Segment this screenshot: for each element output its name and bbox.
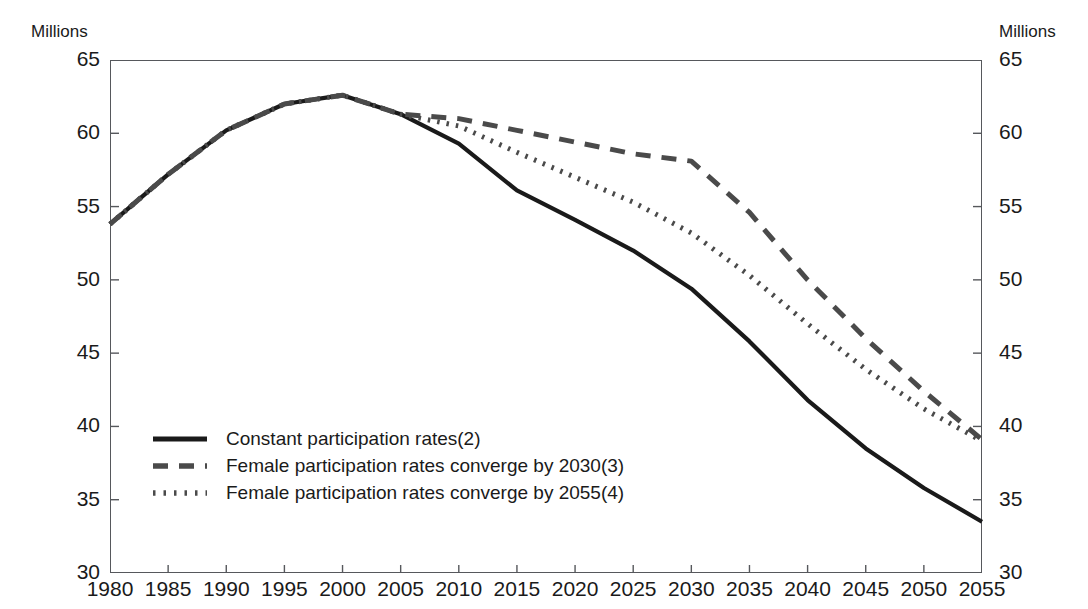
y-axis-tick-label: 65 <box>999 48 1069 69</box>
legend-label: Constant participation rates(2) <box>226 428 481 450</box>
legend-label: Female participation rates converge by 2… <box>226 482 624 504</box>
chart-legend: Constant participation rates(2)Female pa… <box>152 425 624 506</box>
y-axis-tick-label: 60 <box>30 121 100 142</box>
y-axis-tick-label: 55 <box>999 195 1069 216</box>
series-line <box>110 95 982 441</box>
y-axis-tick-label: 45 <box>999 341 1069 362</box>
legend-swatch-solid <box>152 432 208 446</box>
y-axis-tick-label: 50 <box>999 268 1069 289</box>
y-axis-tick-label: 35 <box>999 488 1069 509</box>
y-axis-tick-label: 55 <box>30 195 100 216</box>
legend-item[interactable]: Female participation rates converge by 2… <box>152 479 624 506</box>
legend-item[interactable]: Female participation rates converge by 2… <box>152 452 624 479</box>
chart-container: Millions Millions 6560555045403530 65605… <box>0 0 1088 609</box>
data-series-layer <box>0 0 1088 609</box>
legend-label: Female participation rates converge by 2… <box>226 455 624 477</box>
y-axis-tick-label: 50 <box>30 268 100 289</box>
y-axis-tick-label: 45 <box>30 341 100 362</box>
series-line <box>110 95 982 439</box>
legend-swatch-dashed <box>152 459 208 473</box>
legend-swatch-dotted <box>152 486 208 500</box>
y-axis-tick-label: 40 <box>999 414 1069 435</box>
y-axis-tick-label: 40 <box>30 414 100 435</box>
y-axis-tick-label: 65 <box>30 48 100 69</box>
y-axis-tick-label: 60 <box>999 121 1069 142</box>
x-axis-tick-label: 2055 <box>947 578 1017 599</box>
y-axis-tick-label: 35 <box>30 488 100 509</box>
legend-item[interactable]: Constant participation rates(2) <box>152 425 624 452</box>
